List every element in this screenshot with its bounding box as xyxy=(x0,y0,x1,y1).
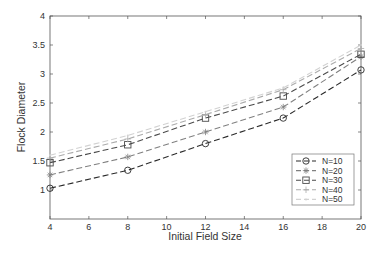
y-tick-label: 3.5 xyxy=(32,40,45,50)
x-tick-label: 8 xyxy=(125,222,130,232)
square-marker-icon xyxy=(280,93,286,99)
point-marker-icon xyxy=(49,154,51,156)
y-tick-label: 2 xyxy=(40,127,45,137)
y-tick-label: 3 xyxy=(40,69,45,79)
series-n-30 xyxy=(47,51,364,166)
legend-label: N=30 xyxy=(322,175,343,185)
star-marker-icon xyxy=(202,129,208,135)
star-marker-icon xyxy=(280,104,286,110)
point-marker-icon xyxy=(127,134,129,136)
point-marker-icon xyxy=(360,44,362,46)
legend-label: N=10 xyxy=(322,156,343,166)
y-tick-label: 1 xyxy=(40,185,45,195)
x-tick-label: 6 xyxy=(86,222,91,232)
star-marker-icon xyxy=(47,172,53,178)
point-marker-icon xyxy=(205,111,207,113)
y-axis-label: Flock Diameter xyxy=(15,81,27,152)
y-tick-label: 2.5 xyxy=(32,98,45,108)
x-tick-label: 16 xyxy=(278,222,288,232)
legend: N=10N=20N=30N=40N=50 xyxy=(292,154,354,205)
x-axis-label: Initial Field Size xyxy=(168,230,242,242)
line-chart: 46810121416182011.522.533.54 Initial Fie… xyxy=(0,0,383,254)
star-marker-icon xyxy=(358,53,364,59)
legend-label: N=40 xyxy=(322,185,343,195)
point-marker-icon xyxy=(282,87,284,89)
x-tick-label: 18 xyxy=(317,222,327,232)
legend-label: N=50 xyxy=(322,194,343,204)
series-n-50 xyxy=(49,44,362,156)
x-tick-label: 4 xyxy=(47,222,52,232)
y-tick-label: 1.5 xyxy=(32,156,45,166)
point-marker-icon xyxy=(305,198,307,200)
x-tick-label: 20 xyxy=(356,222,366,232)
y-tick-label: 4 xyxy=(40,11,45,21)
legend-label: N=20 xyxy=(322,166,343,176)
star-marker-icon xyxy=(125,154,131,160)
